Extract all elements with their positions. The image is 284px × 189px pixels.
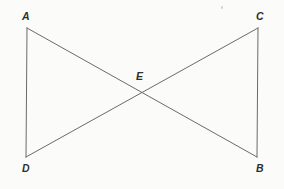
vertex-label-a: A — [22, 11, 30, 22]
vertex-label-e: E — [136, 71, 143, 82]
geometry-figure: A C D B E — [0, 0, 284, 189]
figure-canvas — [0, 0, 284, 189]
vertex-label-c: C — [256, 11, 264, 22]
vertex-label-d: D — [22, 163, 30, 174]
segment-AD — [26, 28, 27, 157]
vertex-label-b: B — [256, 163, 264, 174]
segment-CB — [257, 28, 258, 157]
scan-speck — [221, 6, 223, 9]
